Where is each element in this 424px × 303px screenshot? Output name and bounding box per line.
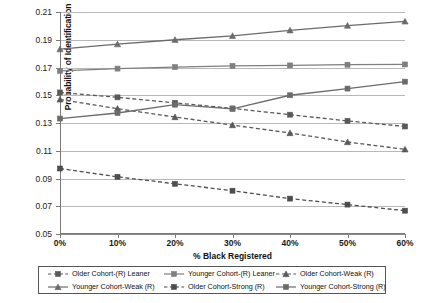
legend-item[interactable]: Younger Cohort-Strong (R): [275, 280, 387, 294]
y-axis-tick-label: 0.17: [18, 64, 52, 73]
data-point: [115, 95, 120, 100]
x-axis-tick-mark: [290, 234, 291, 238]
x-axis-tick-mark: [175, 234, 176, 238]
data-point: [403, 62, 408, 67]
series-6: [58, 79, 408, 121]
data-point: [230, 188, 235, 193]
legend-swatch-square-icon: [275, 282, 297, 292]
data-point: [345, 118, 350, 123]
legend-swatch-square-icon: [163, 282, 185, 292]
legend-label: Older Cohort-(R) Leaner: [69, 270, 150, 278]
data-point: [173, 181, 178, 186]
data-point: [173, 65, 178, 70]
x-axis-tick-label: 40%: [270, 238, 310, 248]
legend-label: Younger Cohort-(R) Leaner: [185, 270, 275, 278]
legend-item[interactable]: Older Cohort-Strong (R): [163, 280, 275, 294]
y-axis-tick-label: 0.09: [18, 175, 52, 184]
legend-item[interactable]: Younger Cohort-Weak (R): [47, 280, 163, 294]
legend-item[interactable]: Older Cohort-(R) Leaner: [47, 267, 163, 281]
y-axis-tick-label: 0.21: [18, 8, 52, 17]
series-line: [60, 82, 405, 119]
data-point: [345, 86, 350, 91]
x-axis-tick-mark: [118, 234, 119, 238]
legend-label: Older Cohort-Strong (R): [185, 283, 265, 291]
data-point: [288, 112, 293, 117]
y-axis-tick-label: 0.07: [18, 202, 52, 211]
x-axis-tick-mark: [233, 234, 234, 238]
legend-row: Younger Cohort-Weak (R)Older Cohort-Stro…: [39, 280, 385, 294]
data-point: [345, 62, 350, 67]
x-axis-tick-label: 50%: [328, 238, 368, 248]
x-axis-tick-label: 10%: [98, 238, 138, 248]
data-point: [58, 166, 63, 171]
y-axis-tick-label: 0.15: [18, 91, 52, 100]
data-point: [115, 111, 120, 116]
series-2: [58, 62, 408, 74]
legend-item[interactable]: Older Cohort-Weak (R): [275, 267, 387, 281]
data-point: [230, 63, 235, 68]
legend-label: Younger Cohort-Weak (R): [69, 283, 155, 291]
y-axis-tick-label: 0.11: [18, 147, 52, 156]
legend-swatch-triangle-icon: [275, 269, 297, 279]
data-point: [58, 90, 63, 95]
data-point: [288, 196, 293, 201]
data-point: [115, 174, 120, 179]
series-layer: [60, 12, 405, 234]
series-3: [57, 96, 408, 152]
legend-swatch-square-icon: [163, 269, 185, 279]
x-axis-tick-label: 30%: [213, 238, 253, 248]
legend-item[interactable]: Younger Cohort-(R) Leaner: [163, 267, 275, 281]
y-axis-tick-label: 0.19: [18, 36, 52, 45]
legend-row: Older Cohort-(R) LeanerYounger Cohort-(R…: [39, 267, 385, 281]
x-axis-tick-label: 0%: [40, 238, 80, 248]
legend-label: Younger Cohort-Strong (R): [297, 283, 386, 291]
data-point: [115, 66, 120, 71]
x-axis-tick-mark: [60, 234, 61, 238]
line-chart: Probability of Identification 0.050.070.…: [0, 0, 424, 303]
data-point: [58, 68, 63, 73]
y-axis-tick-label: 0.13: [18, 119, 52, 128]
data-point: [403, 79, 408, 84]
series-4: [57, 18, 408, 51]
data-point: [345, 202, 350, 207]
legend-swatch-triangle-icon: [47, 282, 69, 292]
x-axis-tick-mark: [405, 234, 406, 238]
data-point: [230, 106, 235, 111]
data-point: [403, 124, 408, 129]
legend-swatch-square-icon: [47, 269, 69, 279]
data-point: [173, 102, 178, 107]
data-point: [403, 208, 408, 213]
data-point: [288, 63, 293, 68]
series-5: [58, 166, 408, 213]
chart-legend: Older Cohort-(R) LeanerYounger Cohort-(R…: [38, 266, 386, 294]
x-axis-tick-mark: [348, 234, 349, 238]
legend-label: Older Cohort-Weak (R): [297, 270, 374, 278]
x-axis-title: % Black Registered: [60, 251, 405, 261]
data-point: [288, 93, 293, 98]
x-axis-tick-label: 60%: [385, 238, 424, 248]
x-axis-tick-label: 20%: [155, 238, 195, 248]
data-point: [58, 116, 63, 121]
